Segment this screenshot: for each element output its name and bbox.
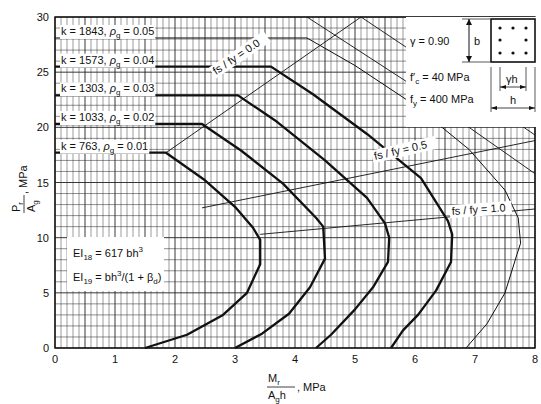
y-tick-label: 10	[37, 232, 49, 244]
svg-text:Ag: Ag	[25, 200, 40, 212]
fs-fy-0-label: fs / fy = 0.0	[210, 36, 262, 76]
x-tick-label: 5	[352, 353, 358, 365]
y-tick-label: 20	[37, 121, 49, 133]
y-tick-label: 30	[37, 11, 49, 23]
y-axis-title: Pr Ag , MPa	[10, 164, 40, 213]
y-tick-label: 25	[37, 66, 49, 78]
svg-text:Pr: Pr	[10, 202, 25, 212]
y-tick-label: 0	[43, 342, 49, 354]
x-tick-label: 2	[172, 353, 178, 365]
stress-ratio-line	[202, 141, 535, 208]
gamma-value: γ = 0.90	[410, 35, 449, 47]
x-tick-label: 6	[412, 353, 418, 365]
svg-text:γh: γh	[506, 73, 518, 85]
column-section-icon	[491, 19, 535, 62]
svg-text:Agh: Agh	[268, 389, 286, 404]
y-tick-label: 5	[43, 287, 49, 299]
svg-text:h: h	[510, 94, 516, 106]
y-tick-label: 15	[37, 177, 49, 189]
parameter-legend: γ = 0.90 f′c = 40 MPa fy = 400 MPa b	[406, 17, 536, 127]
x-tick-label: 8	[532, 353, 538, 365]
svg-text:Mr: Mr	[268, 372, 280, 387]
x-tick-label: 7	[472, 353, 478, 365]
interaction-curve-rho-0.02	[55, 124, 325, 348]
interaction-diagram: 012345678051015202530 EI18 = 617 bh3 EI1…	[0, 0, 541, 404]
interaction-curve-rho-0.03	[55, 95, 389, 348]
x-tick-label: 0	[52, 353, 58, 365]
x-tick-label: 1	[112, 353, 118, 365]
svg-text:, MPa: , MPa	[17, 164, 29, 194]
x-tick-label: 3	[232, 353, 238, 365]
ei-formula-box: EI18 = 617 bh3 EI19 = bh3/(1 + βd)	[67, 237, 164, 291]
svg-text:, MPa: , MPa	[297, 381, 327, 393]
x-axis-title: Mr Agh , MPa	[267, 372, 327, 404]
svg-text:b: b	[474, 35, 480, 47]
fs-fy-05-label: fs / fy = 0.5	[373, 138, 428, 162]
x-tick-label: 4	[292, 353, 298, 365]
curve-labels: k = 1843, ρg = 0.05k = 1573, ρg = 0.04k …	[60, 25, 155, 155]
